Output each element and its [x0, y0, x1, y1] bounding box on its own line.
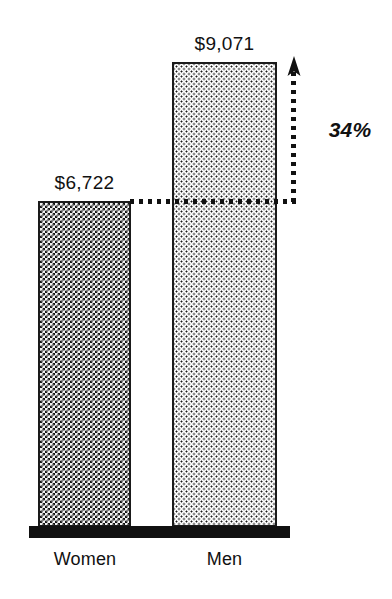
dotted-leader-line	[130, 199, 298, 204]
dotted-riser-line	[291, 72, 296, 202]
percent-gap-label: 34%	[312, 118, 388, 142]
category-label-men: Men	[172, 549, 277, 570]
bar-chart-figure: $9,071 $6,722 34% Women Men	[0, 0, 392, 599]
chart-baseline	[29, 526, 290, 538]
bar-value-label-men: $9,071	[172, 33, 277, 55]
category-label-women: Women	[30, 549, 140, 570]
bar-women	[38, 201, 131, 527]
arrow-up-icon	[285, 56, 303, 78]
bar-value-label-women: $6,722	[38, 172, 131, 194]
bar-men	[172, 62, 277, 527]
